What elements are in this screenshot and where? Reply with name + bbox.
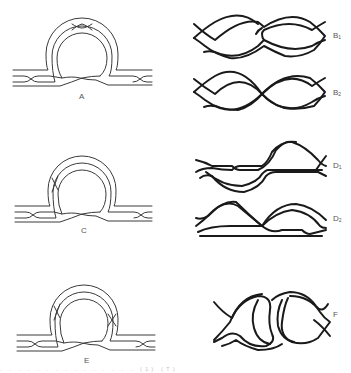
panel-f-label-text: F — [333, 310, 338, 319]
panel-f-label: F — [333, 311, 338, 319]
panel-d1-diagram — [196, 142, 326, 192]
panel-d2-subscript: 2 — [339, 217, 342, 223]
panel-e-diagram — [17, 285, 155, 351]
panel-a-diagram — [13, 18, 152, 86]
panel-b2-label: B2 — [333, 89, 341, 98]
panel-e-label-text: E — [84, 356, 89, 365]
panel-f-diagram — [214, 292, 330, 350]
panel-e-label: E — [84, 357, 89, 365]
panel-b1-label: B1 — [333, 32, 341, 41]
panel-b2-subscript: 2 — [338, 91, 341, 97]
panel-d1-subscript: 1 — [339, 164, 342, 170]
panel-b1-diagram — [194, 15, 325, 58]
panel-d2-label: D2 — [333, 215, 342, 224]
panel-d2-diagram — [196, 202, 326, 236]
panel-a-label-text: A — [79, 92, 84, 101]
panel-b2-diagram — [194, 72, 325, 110]
panel-c-label: C — [81, 227, 87, 235]
caption-fragment: . . . . . . . . . . . . . . . (1) (T) — [0, 366, 351, 373]
panel-d1-label: D1 — [333, 162, 342, 171]
figure-canvas — [0, 0, 351, 373]
panel-c-diagram — [15, 156, 152, 222]
panel-a-label: A — [79, 93, 84, 101]
panel-c-label-text: C — [81, 226, 87, 235]
panel-b1-subscript: 1 — [338, 34, 341, 40]
